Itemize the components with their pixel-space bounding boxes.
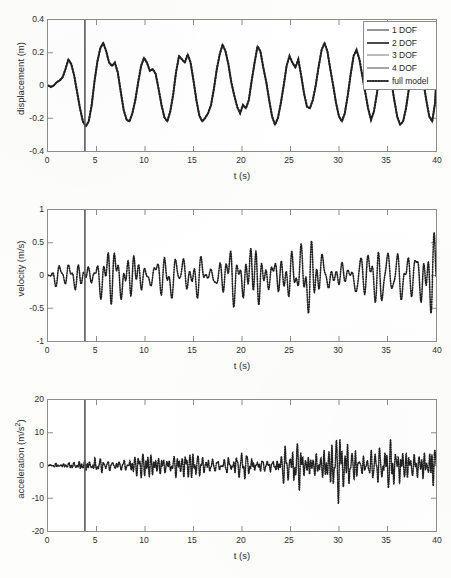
x-tick-displacement-8: 40 [427,155,447,165]
x-tick-displacement-3: 15 [182,155,202,165]
legend-item-3dof: 3 DOF [367,49,432,62]
x-tick-velocity-3: 15 [182,345,202,355]
x-tick-acceleration-1: 5 [85,535,105,545]
acceleration-canvas [48,400,436,531]
y-tick-displacement-3: -0.2 [16,113,44,123]
x-axis-label-velocity: t (s) [192,360,292,371]
x-tick-acceleration-4: 20 [231,535,251,545]
x-tick-velocity-7: 35 [376,345,396,355]
legend-item-2dof: 2 DOF [367,37,432,50]
y-tick-acceleration-1: 10 [14,427,44,437]
legend-label-4dof: 4 DOF [392,63,417,73]
acceleration-trace-full-model [48,439,436,503]
x-tick-velocity-8: 40 [427,345,447,355]
figure-root: displacement (m) 0.4 0.2 0 -0.2 -0.4 [0,0,451,578]
x-tick-acceleration-6: 30 [328,535,348,545]
x-tick-displacement-2: 10 [134,155,154,165]
x-tick-acceleration-8: 40 [427,535,447,545]
y-tick-displacement-0: 0.4 [16,14,44,24]
x-axis-label-acceleration: t (s) [192,550,292,561]
x-tick-displacement-7: 35 [376,155,396,165]
x-tick-velocity-5: 25 [279,345,299,355]
x-tick-velocity-4: 20 [231,345,251,355]
legend-label-full-model: full model [392,76,428,86]
x-tick-displacement-1: 5 [85,155,105,165]
legend-item-full-model: full model [367,74,432,87]
plot-area-acceleration [47,399,437,532]
plot-area-velocity [47,209,437,342]
velocity-trace-full-model [48,233,436,314]
legend-label-2dof: 2 DOF [392,38,417,48]
legend: 1 DOF 2 DOF 3 DOF 4 DOF [363,21,437,90]
legend-line-full-model [367,76,389,86]
y-axis-label-acceleration-exponent: 2 [14,423,21,427]
x-tick-acceleration-3: 15 [182,535,202,545]
legend-label-1dof: 1 DOF [392,25,417,35]
y-tick-velocity-1: 0.5 [16,237,44,247]
x-tick-velocity-2: 10 [134,345,154,355]
legend-line-4dof [367,63,389,73]
y-tick-displacement-2: 0 [16,80,44,90]
y-tick-velocity-3: -0.5 [16,303,44,313]
y-tick-acceleration-0: 20 [14,394,44,404]
legend-line-1dof [367,25,389,35]
y-axis-label-acceleration-close: ) [15,419,26,422]
legend-item-1dof: 1 DOF [367,24,432,37]
x-tick-acceleration-7: 35 [376,535,396,545]
velocity-canvas [48,210,436,341]
panel-velocity: velocity (m/s) 1 0.5 0 -0.5 -1 [0,190,451,380]
legend-line-3dof [367,50,389,60]
panel-acceleration: acceleration (m/s2) 20 10 0 -10 -20 [0,380,451,578]
legend-item-4dof: 4 DOF [367,62,432,75]
y-tick-velocity-2: 0 [16,270,44,280]
x-tick-velocity-6: 30 [328,345,348,355]
legend-label-3dof: 3 DOF [392,50,417,60]
y-tick-velocity-0: 1 [16,204,44,214]
x-tick-acceleration-5: 25 [279,535,299,545]
x-tick-acceleration-2: 10 [134,535,154,545]
x-tick-displacement-0: 0 [37,155,57,165]
x-tick-displacement-5: 25 [279,155,299,165]
x-tick-velocity-0: 0 [37,345,57,355]
x-tick-displacement-6: 30 [328,155,348,165]
y-tick-acceleration-3: -10 [14,493,44,503]
panel-displacement: displacement (m) 0.4 0.2 0 -0.2 -0.4 [0,0,451,190]
x-tick-displacement-4: 20 [231,155,251,165]
y-tick-displacement-1: 0.2 [16,47,44,57]
x-axis-label-displacement: t (s) [192,170,292,181]
x-tick-acceleration-0: 0 [37,535,57,545]
legend-line-2dof [367,38,389,48]
x-tick-velocity-1: 5 [85,345,105,355]
y-tick-acceleration-2: 0 [14,460,44,470]
